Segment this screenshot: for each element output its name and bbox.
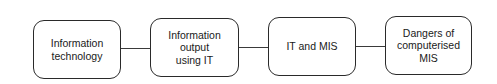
connector-2-3 (239, 47, 268, 48)
node-label: IT and MIS (286, 40, 337, 53)
node-it-and-mis: IT and MIS (268, 17, 356, 76)
node-information-technology: Information technology (33, 20, 121, 79)
node-label: Dangers of computerised MIS (397, 27, 460, 65)
connector-3-4 (356, 46, 385, 47)
node-information-output-using-it: Information output using IT (150, 18, 239, 77)
connector-1-2 (121, 48, 150, 49)
node-label: Information technology (51, 37, 104, 62)
node-label: Information output using IT (168, 29, 221, 67)
node-dangers-of-computerised-mis: Dangers of computerised MIS (385, 16, 472, 75)
